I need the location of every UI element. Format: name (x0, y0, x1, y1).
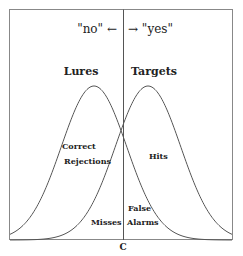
signal-detection-diagram: "no" ← → "yes" Lures Targets Correct Rej… (0, 0, 243, 256)
misses-label: Misses (91, 217, 122, 227)
false-alarms-label-line2: Alarms (126, 217, 159, 227)
yes-response-label: → "yes" (128, 22, 173, 36)
correct-rejections-label-line2: Rejections (64, 156, 111, 166)
false-alarms-label-line1: False (128, 203, 151, 213)
lures-label: Lures (64, 65, 99, 78)
no-response-label: "no" ← (77, 22, 117, 36)
plot-frame (10, 10, 233, 240)
criterion-label: C (119, 242, 126, 252)
hits-label: Hits (149, 151, 168, 161)
targets-label: Targets (131, 65, 177, 78)
correct-rejections-label-line1: Correct (62, 141, 96, 151)
